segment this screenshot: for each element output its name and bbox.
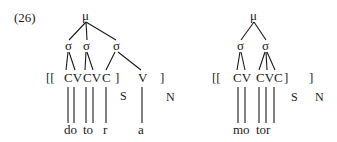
segment-to: to	[83, 122, 93, 137]
branch-line	[241, 52, 245, 70]
branch-line	[86, 22, 116, 40]
skeleton-cv: CV	[233, 70, 252, 85]
branch-line	[267, 52, 275, 70]
stem-close-bracket: ]	[115, 70, 119, 85]
mu-node: μ	[82, 8, 89, 23]
branch-line	[87, 52, 93, 70]
skeleton-cvc: CVC	[256, 70, 283, 85]
sigma-node-3: σ	[113, 38, 120, 53]
skeleton-v: V	[138, 70, 148, 85]
segment-tor: tor	[256, 122, 271, 137]
segment-r: r	[103, 122, 108, 137]
word-close-bracket: ]	[309, 70, 313, 85]
branch-line	[66, 52, 68, 70]
stem-label: S	[291, 90, 298, 104]
branch-line	[266, 52, 267, 70]
example-number: (26)	[14, 10, 36, 25]
segment-mo: mo	[233, 122, 250, 137]
sigma-node-1: σ	[65, 38, 72, 53]
skeleton-cv-2: CV	[83, 70, 102, 85]
sigma-node-2: σ	[262, 38, 269, 53]
stem-close-bracket: ]	[284, 70, 288, 85]
segment-a: a	[138, 122, 144, 137]
branch-line	[237, 52, 240, 70]
mu-node: μ	[250, 8, 257, 23]
segment-do: do	[64, 122, 77, 137]
word-label: N	[166, 90, 175, 104]
prosodic-diagram: (26) μ σ σ σ [[ CV CV C ] V ] S N	[0, 0, 337, 142]
branch-line	[259, 52, 265, 70]
tree-right: μ σ σ [[ CV CVC ] ] S N mo tor	[212, 8, 324, 137]
stem-label: S	[120, 89, 127, 103]
tree-left: μ σ σ σ [[ CV CV C ] V ] S N do to	[46, 8, 175, 137]
branch-line	[85, 52, 86, 70]
word-label: N	[315, 90, 324, 104]
branch-line	[69, 52, 75, 70]
word-close-bracket: ]	[160, 70, 164, 85]
skeleton-c: C	[102, 70, 111, 85]
branch-line	[106, 52, 115, 70]
branch-line	[118, 52, 141, 70]
sigma-node-2: σ	[83, 38, 90, 53]
skeleton-cv-1: CV	[64, 70, 83, 85]
sigma-node-1: σ	[237, 38, 244, 53]
open-bracket: [[	[46, 70, 55, 85]
open-bracket: [[	[212, 70, 221, 85]
